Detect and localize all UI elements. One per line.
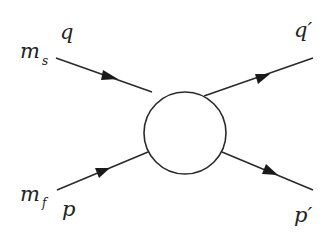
scattering-diagram (0, 0, 332, 243)
label-p: p (62, 199, 75, 220)
arrow-icon (262, 164, 278, 175)
arrow-icon (255, 74, 270, 84)
arrow-icon (95, 168, 110, 178)
incoming-q-line (56, 58, 152, 92)
outgoing-q-prime-line (204, 58, 313, 96)
label-m-f-main: m (20, 182, 40, 206)
label-m-s: m s (20, 41, 40, 62)
incoming-p-line (57, 152, 148, 190)
arrow-icon (101, 70, 118, 80)
label-m-s-main: m (20, 39, 40, 63)
label-q: q (60, 22, 73, 43)
interaction-blob (144, 92, 226, 174)
label-m-s-subscript: s (42, 55, 48, 67)
outgoing-p-prime-line (222, 152, 313, 190)
label-m-f-subscript: f (42, 197, 46, 209)
label-q-prime: q′ (294, 20, 312, 41)
label-p-prime: p′ (294, 205, 312, 226)
label-m-f: m f (20, 184, 40, 205)
